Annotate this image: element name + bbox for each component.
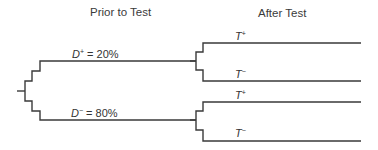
branch-upper-t-positive bbox=[196, 43, 361, 61]
upper-t-positive-sign: + bbox=[242, 30, 246, 37]
d-positive-symbol: D bbox=[72, 48, 80, 60]
branch-upper-t-negative bbox=[196, 61, 361, 81]
d-negative-value: = 80% bbox=[83, 107, 118, 119]
label-d-negative: D− = 80% bbox=[71, 107, 118, 121]
header-after-test: After Test bbox=[258, 7, 306, 19]
branch-d-positive bbox=[25, 61, 196, 91]
label-upper-t-positive: T+ bbox=[235, 30, 246, 44]
upper-t-negative-sign: − bbox=[242, 68, 246, 75]
header-prior-to-test: Prior to Test bbox=[90, 6, 151, 18]
upper-t-positive-symbol: T bbox=[235, 30, 242, 42]
lower-t-positive-symbol: T bbox=[235, 89, 242, 101]
upper-t-negative-symbol: T bbox=[235, 68, 242, 80]
label-lower-t-negative: T− bbox=[235, 127, 246, 141]
d-negative-symbol: D bbox=[71, 107, 79, 119]
branch-lower-t-positive bbox=[196, 102, 361, 120]
lower-t-negative-sign: − bbox=[242, 127, 246, 134]
tree-lines bbox=[0, 0, 378, 150]
d-negative-sign: − bbox=[79, 107, 83, 114]
branch-lower-t-negative bbox=[196, 120, 361, 141]
lower-t-positive-sign: + bbox=[242, 89, 246, 96]
lower-t-negative-symbol: T bbox=[235, 127, 242, 139]
d-positive-sign: + bbox=[80, 48, 84, 55]
label-lower-t-positive: T+ bbox=[235, 89, 246, 103]
d-positive-value: = 20% bbox=[84, 48, 119, 60]
label-d-positive: D+ = 20% bbox=[72, 48, 119, 62]
label-upper-t-negative: T− bbox=[235, 68, 246, 82]
